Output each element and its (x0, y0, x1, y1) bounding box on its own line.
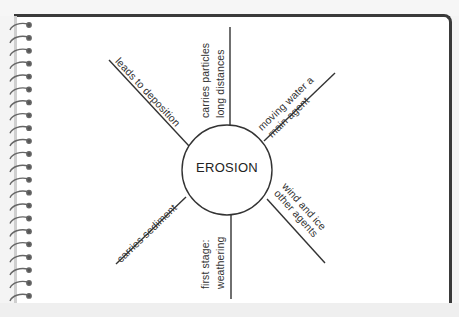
spoke-label-bottom-line2: weathering (214, 237, 226, 289)
diagram-lines (0, 0, 459, 317)
spoke-line-upper-left (109, 60, 189, 146)
center-label: EROSION (182, 160, 272, 175)
spoke-label-top-line1: carries particles (199, 43, 211, 118)
spiral-binding-icon (10, 23, 31, 301)
spoke-label-bottom-line1: first stage: (199, 239, 211, 289)
spoke-label-top-line2: long distances (214, 49, 226, 118)
